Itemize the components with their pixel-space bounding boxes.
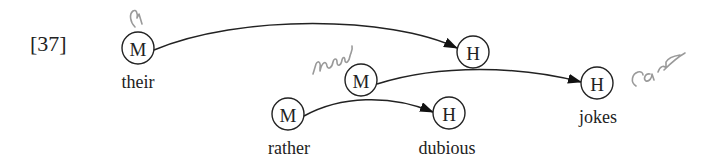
handwritten-new (313, 46, 352, 74)
node-type-label: H (590, 74, 604, 95)
arc-rather-to-dubious (304, 100, 433, 116)
node-h-dubious: H dubious (418, 97, 475, 158)
example-number: [37] (30, 31, 67, 56)
word-label: dubious (418, 138, 475, 158)
node-type-label: H (442, 104, 456, 125)
handwritten-a-above-their (131, 10, 142, 27)
node-h-top: H (457, 36, 489, 68)
handwritten-car (632, 53, 685, 86)
node-type-label: M (130, 39, 147, 60)
modifier-head-diagram: [37] M their H M H jokes M rather H dubi… (0, 0, 710, 162)
word-label: jokes (578, 107, 617, 127)
arc-their-to-head (154, 24, 457, 51)
node-type-label: H (466, 43, 480, 64)
arc-new-to-jokes (377, 70, 581, 85)
node-m-new: M (345, 64, 377, 96)
word-label: their (122, 72, 155, 92)
node-type-label: M (353, 71, 370, 92)
word-label: rather (268, 138, 310, 158)
node-type-label: M (280, 105, 297, 126)
node-m-rather: M rather (268, 98, 310, 158)
node-m-their: M their (122, 32, 155, 92)
node-h-jokes: H jokes (578, 67, 617, 127)
